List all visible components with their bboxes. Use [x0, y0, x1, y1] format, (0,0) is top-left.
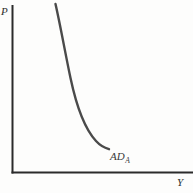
ad-curve-label: ADA: [110, 151, 129, 162]
horizontal-axis-label: Y: [177, 177, 183, 188]
aggregate-demand-diagram: P Y ADA: [0, 0, 193, 193]
diagram-canvas: [0, 0, 193, 193]
ad-curve-label-subscript: A: [125, 156, 130, 165]
vertical-axis-label: P: [1, 6, 8, 17]
aggregate-demand-curve: [56, 4, 110, 149]
ad-curve-label-main: AD: [110, 150, 125, 162]
